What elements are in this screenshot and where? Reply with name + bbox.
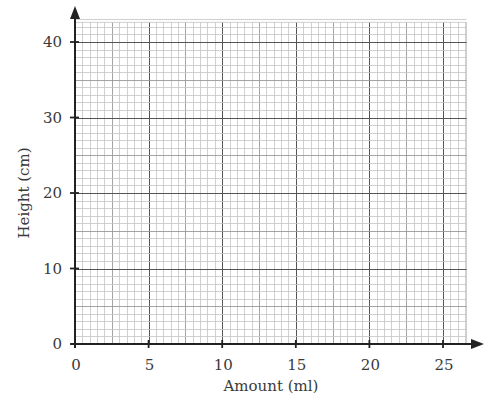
y-tick-label: 30 xyxy=(43,109,62,127)
x-tick-label: 25 xyxy=(434,356,453,374)
y-tick-label: 20 xyxy=(43,184,62,202)
x-axis-arrow-icon xyxy=(471,339,484,349)
x-tick-label: 20 xyxy=(361,356,380,374)
y-axis-title: Height (cm) xyxy=(15,147,33,238)
grid xyxy=(75,20,467,345)
y-axis-arrow-icon xyxy=(70,6,80,19)
x-tick-label: 0 xyxy=(71,356,81,374)
x-tick-label: 10 xyxy=(214,356,233,374)
x-tick-label: 15 xyxy=(287,356,306,374)
y-tick-label: 40 xyxy=(43,33,62,51)
x-tick-label: 5 xyxy=(145,356,155,374)
y-tick-label: 10 xyxy=(43,260,62,278)
y-tick-label: 0 xyxy=(52,335,62,353)
chart-canvas: 0510152025010203040 Amount (ml) Height (… xyxy=(0,0,494,409)
chart: 0510152025010203040 Amount (ml) Height (… xyxy=(0,0,494,409)
x-axis-title: Amount (ml) xyxy=(223,377,319,395)
